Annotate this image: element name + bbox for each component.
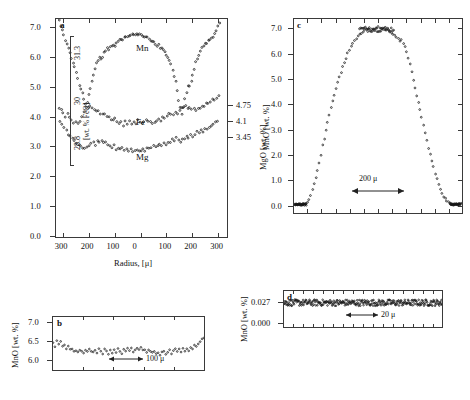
- panel-c-xtick-mark-bottom: [307, 209, 308, 214]
- panel-a-feo-tick-label: 31.3: [74, 46, 82, 60]
- panel-c-ytick-mark: [288, 54, 293, 55]
- panel-b-ytick-label: 6.5: [28, 337, 39, 346]
- panel-b-ytick-mark: [47, 360, 52, 361]
- panel-d-xtick-mark-top: [343, 290, 344, 294]
- panel-b-ytick-mark: [47, 322, 52, 323]
- panel-c-ytick-label: 1.0: [271, 176, 282, 185]
- panel-a-mgo-tick-label: 4.1: [236, 117, 247, 126]
- panel-b-xtick-mark-bottom: [174, 367, 175, 371]
- panel-d-xtick-mark-bottom: [293, 324, 294, 328]
- panel-c-xtick-mark-top: [336, 18, 337, 23]
- panel-a-ytick-label: 3.0: [30, 142, 41, 151]
- panel-d-plot-frame: [283, 290, 443, 328]
- panel-d-xtick-mark-top: [363, 290, 364, 294]
- panel-a-xtick-label: 100: [158, 242, 171, 251]
- panel-b: b 6.06.57.0 MnO [wt. %] 100 μ: [0, 290, 215, 400]
- panel-d-xtick-mark-bottom: [313, 324, 314, 328]
- panel-d-xtick-mark-top: [313, 290, 314, 294]
- panel-d-scalebar: [345, 310, 379, 320]
- panel-c-xtick-mark-top: [406, 18, 407, 23]
- panel-b-xtick-mark-bottom: [113, 367, 114, 371]
- panel-a-xtick-mark-top: [218, 18, 219, 23]
- panel-a-ytick-mark: [50, 57, 55, 58]
- panel-c-xtick-mark-top: [364, 18, 365, 23]
- panel-b-yaxis-title: MnO [wt. %]: [10, 322, 20, 368]
- panel-c-ytick-label: 5.0: [271, 75, 282, 84]
- panel-a-feo-axis-line: [70, 36, 71, 166]
- panel-c-xtick-mark-bottom: [378, 209, 379, 214]
- panel-c-ytick-mark: [288, 104, 293, 105]
- panel-a-feo-tick-label: 28.8: [74, 136, 82, 150]
- panel-d-xtick-mark-bottom: [413, 324, 414, 328]
- panel-c-label: c: [297, 20, 301, 30]
- panel-c-ytick-label: 4.0: [271, 100, 282, 109]
- panel-d: d 0.0000.027 MnO [wt. %] 20 μ: [235, 280, 470, 360]
- panel-d-xtick-mark-top: [423, 290, 424, 294]
- panel-a-mgo-tick-label: 3.45: [236, 133, 251, 142]
- panel-c-ytick-mark-right: [458, 206, 463, 207]
- panel-d-xtick-mark-bottom: [353, 324, 354, 328]
- panel-a-xtick-mark: [115, 233, 116, 238]
- panel-a-xtick-mark: [218, 233, 219, 238]
- panel-a-feo-tick-label: 30: [74, 97, 82, 105]
- panel-c-ytick-mark: [288, 155, 293, 156]
- panel-d-xtick-mark-top: [403, 290, 404, 294]
- panel-d-xtick-mark-top: [293, 290, 294, 294]
- panel-c-xtick-mark-top: [421, 18, 422, 23]
- panel-b-xtick-mark-top: [174, 316, 175, 320]
- panel-c-ytick-label: 2.0: [271, 151, 282, 160]
- panel-a-xtick-label: 200: [81, 242, 94, 251]
- panel-d-xtick-mark-bottom: [403, 324, 404, 328]
- panel-a-xtick-mark: [166, 233, 167, 238]
- panel-b-xtick-mark-top: [113, 316, 114, 320]
- panel-c-ytick-mark-right: [458, 130, 463, 131]
- panel-a-xtick-mark: [89, 233, 90, 238]
- panel-a-xaxis-title: Radius, [μ]: [114, 258, 152, 268]
- panel-c-ytick-mark-right: [458, 180, 463, 181]
- panel-c-xtick-mark-top: [307, 18, 308, 23]
- panel-c-xtick-mark-bottom: [406, 209, 407, 214]
- panel-c: c 0.01.02.03.04.05.06.07.0 MnO [wt. %] 2…: [255, 0, 470, 240]
- panel-c-plot-frame: [293, 18, 463, 214]
- panel-a-ytick-mark: [50, 236, 55, 237]
- panel-c-xtick-mark-top: [321, 18, 322, 23]
- panel-a-feo-axis-cap-bottom: [70, 165, 74, 166]
- panel-d-xtick-mark-bottom: [343, 324, 344, 328]
- panel-c-ytick-label: 7.0: [271, 24, 282, 33]
- panel-a-xtick-mark: [141, 233, 142, 238]
- panel-b-xtick-mark-bottom: [144, 367, 145, 371]
- panel-a-ytick-mark: [50, 87, 55, 88]
- panel-a-ytick-label: 2.0: [30, 172, 41, 181]
- panel-c-xtick-mark-bottom: [435, 209, 436, 214]
- panel-c-yaxis-title: MnO [wt. %]: [261, 104, 271, 150]
- panel-c-xtick-mark-bottom: [364, 209, 365, 214]
- panel-a-feo-axis-title: [wt. % FeO]: [82, 103, 91, 140]
- panel-b-xtick-mark-top: [144, 316, 145, 320]
- panel-a-xtick-label: 0: [133, 242, 137, 251]
- panel-d-xtick-mark-top: [323, 290, 324, 294]
- panel-b-ytick-label: 6.0: [28, 356, 39, 365]
- panel-c-ytick-mark: [288, 28, 293, 29]
- panel-d-xtick-mark-bottom: [323, 324, 324, 328]
- panel-d-plot-area: [284, 291, 442, 327]
- panel-a-xtick-mark-top: [192, 18, 193, 23]
- panel-c-xtick-mark-bottom: [350, 209, 351, 214]
- panel-c-xtick-mark-top: [392, 18, 393, 23]
- panel-a-xtick-mark-top: [89, 18, 90, 23]
- panel-c-xtick-mark-top: [449, 18, 450, 23]
- panel-c-ytick-mark-right: [458, 104, 463, 105]
- panel-c-xtick-mark-bottom: [421, 209, 422, 214]
- panel-d-xtick-mark-bottom: [363, 324, 364, 328]
- panel-c-ytick-mark-right: [458, 155, 463, 156]
- panel-b-label: b: [57, 318, 62, 328]
- panel-d-xtick-mark-top: [303, 290, 304, 294]
- panel-a-mgo-tick-mark: [228, 121, 233, 122]
- panel-b-scalebar-label: 100 μ: [146, 354, 164, 363]
- panel-d-xtick-mark-top: [333, 290, 334, 294]
- panel-a-xtick-mark-top: [166, 18, 167, 23]
- panel-c-xtick-mark-bottom: [321, 209, 322, 214]
- panel-d-xtick-mark-bottom: [433, 324, 434, 328]
- panel-d-xtick-mark-bottom: [333, 324, 334, 328]
- panel-c-ytick-mark: [288, 180, 293, 181]
- panel-d-xtick-mark-top: [413, 290, 414, 294]
